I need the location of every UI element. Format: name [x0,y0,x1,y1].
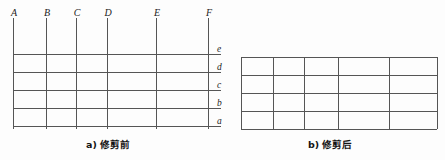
grid-horizontal-line-d [13,72,221,73]
caption-panel-a: a) 修剪前 [86,140,130,150]
grid-vertical-line-f [208,18,209,129]
trimmed-grid-horizontal-line-0 [241,57,437,58]
grid-vertical-line-d [107,18,108,129]
grid-vertical-line-a [13,18,14,129]
grid-horizontal-line-c [13,90,221,91]
horizontal-line-label-a: a [217,117,229,127]
caption-panel-b: b) 修剪后 [308,140,352,150]
horizontal-line-label-d: d [217,63,229,73]
trimmed-grid-horizontal-line-3 [241,111,437,112]
vertical-line-label-d: D [102,8,114,18]
figure-container: ABCDEFedcba a) 修剪前 b) 修剪后 [0,0,445,160]
horizontal-line-label-b: b [217,99,229,109]
grid-vertical-line-b [46,18,47,129]
trimmed-grid-horizontal-line-2 [241,93,437,94]
horizontal-line-label-e: e [217,45,229,55]
trimmed-grid-horizontal-line-1 [241,75,437,76]
grid-horizontal-line-b [13,108,221,109]
grid-horizontal-line-e [13,54,221,55]
trimmed-grid-horizontal-line-4 [241,129,437,130]
grid-vertical-line-c [76,18,77,129]
grid-horizontal-line-a [13,126,221,127]
vertical-line-label-f: F [203,8,215,18]
vertical-line-label-a: A [8,8,20,18]
vertical-line-label-b: B [41,8,53,18]
horizontal-line-label-c: c [217,81,229,91]
vertical-line-label-c: C [71,8,83,18]
grid-vertical-line-e [156,18,157,129]
trimmed-grid-vertical-line-5 [437,57,438,129]
vertical-line-label-e: E [151,8,163,18]
